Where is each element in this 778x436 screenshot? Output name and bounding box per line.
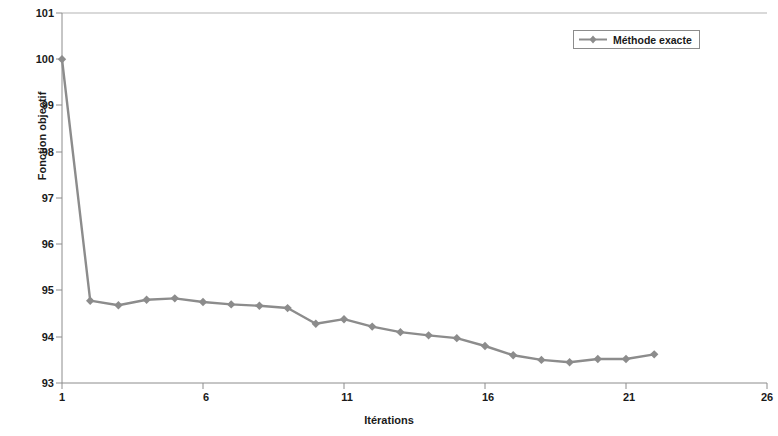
data-point-marker [114, 301, 122, 309]
data-point-marker [622, 355, 630, 363]
data-point-marker [340, 315, 348, 323]
data-point-marker [509, 351, 517, 359]
data-point-marker [396, 328, 404, 336]
series-line [62, 59, 654, 362]
data-point-marker [171, 294, 179, 302]
legend-label-methode-exacte: Méthode exacte [613, 34, 692, 46]
data-point-marker [58, 55, 66, 63]
data-point-marker [368, 322, 376, 330]
plot-area [0, 0, 778, 436]
data-point-marker [565, 358, 573, 366]
data-point-marker [142, 296, 150, 304]
legend-line-diamond-marker-icon [578, 34, 608, 45]
chart-container: Fonction objectif Itérations 101 100 99 … [0, 0, 778, 436]
data-series-methode-exacte [58, 55, 659, 366]
data-point-marker [424, 331, 432, 339]
chart-legend: Méthode exacte [573, 30, 700, 49]
data-point-marker [227, 300, 235, 308]
data-point-marker [594, 355, 602, 363]
data-point-marker [86, 296, 94, 304]
x-axis-ticks [62, 383, 767, 389]
data-point-marker [537, 356, 545, 364]
y-axis-ticks [56, 13, 62, 383]
data-point-marker [481, 342, 489, 350]
data-point-marker [255, 302, 263, 310]
data-point-marker [650, 350, 658, 358]
data-point-marker [199, 298, 207, 306]
data-point-marker [453, 334, 461, 342]
